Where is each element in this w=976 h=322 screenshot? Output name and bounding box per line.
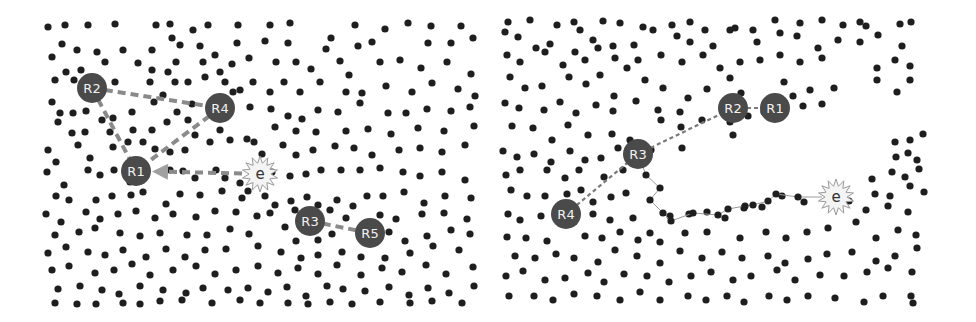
node-label: R1 [766, 101, 783, 116]
sensor-dot [898, 42, 905, 49]
sensor-dot [204, 21, 211, 28]
sensor-dot [440, 209, 447, 216]
sensor-dot [856, 38, 863, 45]
sensor-dot [82, 107, 89, 114]
sensor-dot [863, 268, 870, 275]
sensor-dot [181, 146, 188, 153]
sensor-dot [840, 272, 847, 279]
sensor-dot [314, 236, 321, 243]
sensor-dot [75, 228, 82, 235]
sensor-dot [429, 242, 436, 249]
sensor-dot [136, 300, 143, 307]
sensor-dot [501, 99, 508, 106]
sensor-dot [575, 166, 582, 173]
sensor-dot [51, 299, 58, 306]
sensor-dot [540, 106, 547, 113]
sensor-dot [51, 231, 58, 238]
sensor-dot [42, 210, 49, 217]
sensor-dot [86, 154, 93, 161]
sensor-dot [291, 206, 298, 213]
sensor-dot [445, 289, 452, 296]
node-r1: R1 [121, 156, 151, 186]
sensor-dot [171, 78, 178, 85]
sensor-dot [96, 215, 103, 222]
sensor-dot [109, 114, 116, 121]
sensor-dot [442, 270, 449, 277]
sensor-dot [60, 181, 67, 188]
sensor-dot [156, 297, 163, 304]
sensor-dot [146, 271, 153, 278]
sensor-dot [151, 145, 158, 152]
sensor-dot [521, 84, 528, 91]
sensor-dot [108, 192, 115, 199]
sensor-dot [572, 109, 579, 116]
sensor-dot [111, 78, 118, 85]
sensor-dot [110, 166, 117, 173]
sensor-dot [216, 68, 223, 75]
sensor-dot [646, 229, 653, 236]
node-r3: R3 [295, 206, 325, 236]
sensor-dot [467, 70, 474, 77]
sensor-dot [438, 148, 445, 155]
sensor-dot [109, 143, 116, 150]
sensor-dot [530, 292, 537, 299]
sensor-dot [686, 18, 693, 25]
sensor-dot [904, 208, 911, 215]
sensor-dot [519, 267, 526, 274]
sensor-dot [387, 130, 394, 137]
sensor-dot [912, 231, 919, 238]
sensor-dot [522, 234, 529, 241]
sensor-dot [570, 254, 577, 261]
sensor-dot [469, 34, 476, 41]
sensor-dot [441, 192, 448, 199]
sensor-dot [818, 54, 825, 61]
sensor-dot [678, 144, 685, 151]
sensor-dot [886, 192, 893, 199]
sensor-dot [516, 166, 523, 173]
sensor-dot [427, 22, 434, 29]
sensor-dot [701, 26, 708, 33]
sensor-dot [447, 39, 454, 46]
sensor-dot [582, 80, 589, 87]
sensor-dot [907, 18, 914, 25]
sensor-dot [641, 76, 648, 83]
sensor-dot [189, 26, 196, 33]
route-path [638, 154, 822, 225]
route-hop-dot [764, 197, 771, 204]
sensor-dot [538, 82, 545, 89]
sensor-dot [392, 215, 399, 222]
sensor-dot [222, 245, 229, 252]
sensor-dot [868, 175, 875, 182]
sensor-dot [296, 88, 303, 95]
sensor-dot [803, 228, 810, 235]
sensor-dot [333, 196, 340, 203]
sensor-dot [181, 253, 188, 260]
sensor-dot [677, 123, 684, 130]
sensor-dot [395, 146, 402, 153]
node-label: R2 [83, 81, 100, 96]
sensor-dot [236, 296, 243, 303]
sensor-dot [893, 88, 900, 95]
sensor-dot [920, 188, 927, 195]
sensor-dot [589, 36, 596, 43]
sensor-dot [326, 206, 333, 213]
sensor-dot [271, 201, 278, 208]
sensor-dot [668, 21, 675, 28]
sensor-dot [879, 292, 886, 299]
sensor-dot [758, 203, 765, 210]
sensor-dot [526, 16, 533, 23]
sensor-dot [334, 108, 341, 115]
node-label: R5 [361, 226, 378, 241]
sensor-dot [184, 116, 191, 123]
route-hop-dot [741, 202, 748, 209]
sensor-dot [499, 147, 506, 154]
sensor-dot [128, 260, 135, 267]
sensor-dot [93, 48, 100, 55]
sensor-dot [266, 21, 273, 28]
sensor-dot [506, 73, 513, 80]
sensor-dot [314, 106, 321, 113]
sensor-dot [629, 214, 636, 221]
sensor-dot [634, 56, 641, 63]
sensor-dot [780, 78, 787, 85]
sensor-dot [379, 192, 386, 199]
